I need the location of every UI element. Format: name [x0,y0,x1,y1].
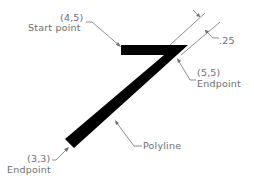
vertex-coord: (5,5) [197,67,221,78]
width-dimension-label: .25 [219,35,235,46]
end-point-coord: (3,3) [27,153,51,164]
polyline-shape [65,45,188,148]
start-point-leader [86,22,121,47]
start-point-label: Start point [28,22,81,33]
vertex-endpoint-leader [177,58,196,80]
end-point-leader [52,147,69,160]
end-point-label: Endpoint [7,164,51,175]
vertex-endpoint-label: Endpoint [197,78,241,89]
polyline-diagram: (4,5) Start point .25 (5,5) Endpoint Pol… [0,0,254,184]
polyline-leader [115,120,142,146]
polyline-label: Polyline [143,140,181,151]
